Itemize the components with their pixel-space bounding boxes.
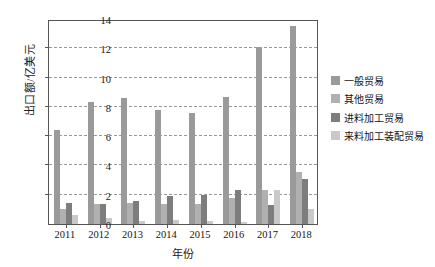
x-tick-mark xyxy=(201,224,202,228)
legend-item: 进料加工贸易 xyxy=(331,111,435,123)
bar xyxy=(139,221,145,224)
y-tick-label: 2 xyxy=(71,190,111,201)
bar xyxy=(173,220,179,224)
x-tick-mark xyxy=(66,224,67,228)
x-tick-mark xyxy=(235,224,236,228)
x-tick-mark xyxy=(133,224,134,228)
bar xyxy=(235,190,241,224)
bar-group xyxy=(150,21,184,224)
x-tick-mark xyxy=(302,224,303,228)
bar xyxy=(308,209,314,224)
y-tick-label: 4 xyxy=(71,161,111,172)
y-tick-label: 8 xyxy=(71,102,111,113)
legend-label: 一般贸易 xyxy=(344,73,384,88)
bar xyxy=(241,222,247,224)
bar-group xyxy=(184,21,218,224)
legend-item: 其他贸易 xyxy=(331,93,435,105)
bar-chart-figure: 出口额/亿美元 02468101214 20112012201320142015… xyxy=(0,0,435,267)
figure-caption-cropped xyxy=(60,258,390,266)
bar xyxy=(201,195,207,224)
y-tick-label: 6 xyxy=(71,132,111,143)
legend-swatch-icon xyxy=(331,76,340,85)
legend-swatch-icon xyxy=(331,94,340,103)
bar xyxy=(274,190,280,224)
y-tick-label: 14 xyxy=(71,15,111,26)
bar-group xyxy=(285,21,319,224)
y-axis-title: 出口额/亿美元 xyxy=(21,5,37,155)
x-tick-label: 2018 xyxy=(278,229,324,240)
legend-swatch-icon xyxy=(331,131,340,140)
x-tick-mark xyxy=(268,224,269,228)
legend-label: 其他贸易 xyxy=(344,91,384,106)
legend-swatch-icon xyxy=(331,113,340,122)
x-tick-mark xyxy=(167,224,168,228)
bar-group xyxy=(252,21,286,224)
bar-group xyxy=(218,21,252,224)
chart-legend: 一般贸易其他贸易进料加工贸易来料加工装配贸易 xyxy=(331,74,435,148)
legend-label: 来料加工装配贸易 xyxy=(344,128,424,143)
legend-label: 进料加工贸易 xyxy=(344,110,404,125)
bar xyxy=(207,221,213,224)
y-tick-label: 12 xyxy=(71,44,111,55)
legend-item: 一般贸易 xyxy=(331,74,435,86)
y-tick-label: 10 xyxy=(71,73,111,84)
bar-group xyxy=(117,21,151,224)
legend-item: 来料加工装配贸易 xyxy=(331,130,435,142)
